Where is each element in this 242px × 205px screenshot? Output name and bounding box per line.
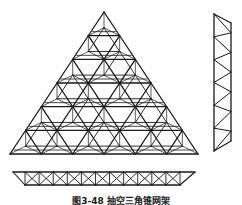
figure-caption: 图3-48 抽空三角锥网架	[0, 196, 242, 205]
plan-view-triangular-grid	[10, 12, 198, 154]
front-elevation	[13, 172, 195, 185]
space-truss-drawing	[0, 0, 242, 205]
side-elevation	[214, 14, 231, 151]
